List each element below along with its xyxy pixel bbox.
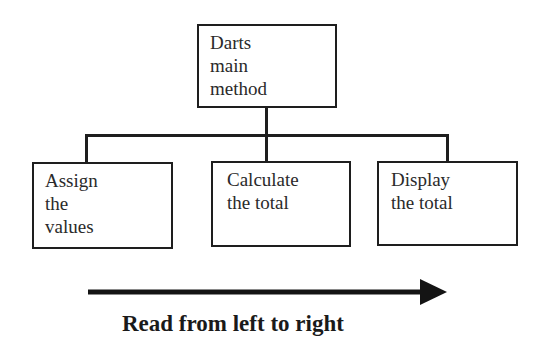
right-arrow-icon: [0, 0, 546, 348]
direction-caption: Read from left to right: [122, 311, 344, 337]
